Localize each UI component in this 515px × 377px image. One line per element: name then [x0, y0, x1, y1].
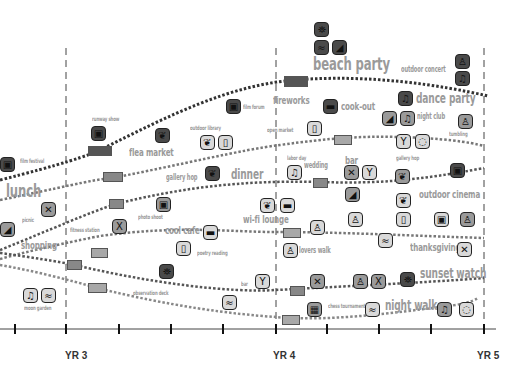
- label-dinner: dinner: [231, 167, 263, 181]
- label-wedding: wedding: [304, 162, 328, 170]
- node-flea-market: [88, 146, 112, 156]
- gallery-hop-icon-left: ❦: [205, 166, 220, 181]
- library-book-icon: ▯: [218, 135, 233, 150]
- moon-garden-swimmer-icon: ≈: [41, 288, 56, 303]
- walker-icon: ♙: [348, 212, 363, 227]
- high-heel-icon: ◢: [345, 187, 360, 202]
- label-sunset-watch: sunset watch: [420, 266, 486, 280]
- film-festival-icon: ▣: [0, 157, 15, 172]
- deck-swimmer-icon: ≈: [222, 295, 237, 310]
- bar-bottom-cocktail-icon: Y: [255, 274, 270, 289]
- cinema-tree-icon: ❦: [396, 193, 411, 208]
- label-outdoor-library: outdoor library: [190, 125, 221, 131]
- label-shopping: shopping: [21, 240, 57, 251]
- label-flea-market: flea market: [129, 147, 174, 158]
- sunset-walker-icon: ♙: [353, 274, 368, 289]
- label-cool-cafe: cool cafe: [165, 225, 200, 236]
- concert-icon: ♫: [455, 71, 470, 86]
- swimmer-sun-icon: ≈: [378, 233, 393, 248]
- lightbulb-icon: ◌: [415, 134, 430, 149]
- year-label-yr3: YR 3: [65, 350, 87, 361]
- year-label-yr4: YR 4: [273, 350, 295, 361]
- label-open-market: open market: [267, 127, 293, 133]
- node-fitness: [109, 199, 124, 209]
- binoculars-icon: ⛯: [314, 22, 329, 37]
- moon-garden-dancers-icon: ♫: [23, 288, 38, 303]
- tumbling-icon: ♙: [458, 114, 473, 129]
- shopping-heel-icon: ◢: [0, 222, 15, 237]
- dog-walker-icon: ♙: [310, 220, 325, 235]
- observation-binoculars-icon: ⛯: [159, 264, 174, 279]
- wifi-tree-icon: ❦: [260, 198, 275, 213]
- node-night-walk: [282, 315, 300, 325]
- flea-market-icon: ❦: [155, 128, 170, 143]
- label-poetry-reading: poetry reading: [197, 250, 228, 256]
- label-bar-bottom: bar: [241, 281, 248, 287]
- swimmer-icon: ≈: [314, 40, 329, 55]
- chess-icon: ▦: [307, 302, 322, 317]
- label-gallery-hop-right: gallery hop: [396, 155, 419, 161]
- bar-cocktail-icon: Y: [362, 165, 377, 180]
- label-cook-out: cook-out: [341, 101, 375, 112]
- night-club-dancers-icon: ♫: [400, 111, 415, 126]
- projector-icon: ▣: [450, 163, 465, 178]
- sunset-fitness-icon: X: [371, 274, 386, 289]
- photo-camera-icon: ▣: [156, 197, 171, 212]
- label-photo-shoot: photo shoot: [138, 214, 163, 220]
- label-observation-deck: observation deck: [133, 290, 168, 296]
- label-tumbling: tumbling: [449, 131, 468, 137]
- film-forum-icon: ▣: [226, 99, 241, 114]
- label-outdoor-cinema: outdoor cinema: [419, 189, 480, 200]
- performer-icon: ♙: [455, 54, 470, 69]
- wifi-laptop-icon: ▬: [280, 198, 295, 213]
- node-gallery-hop: [103, 172, 123, 182]
- node-shopping: [67, 260, 82, 270]
- thanksgiving-fork-knife-icon: ✕: [457, 242, 472, 257]
- night-walk-bulb-icon: ◌: [459, 302, 474, 317]
- night-walk-swimmer-icon: ≈: [365, 302, 380, 317]
- node-wedding: [313, 178, 328, 188]
- bar-fork-knife-icon: ✕: [344, 165, 359, 180]
- fitness-icon: X: [112, 219, 127, 234]
- label-picnic: picnic: [22, 217, 34, 223]
- lounge-chair-icon: ◢: [382, 111, 397, 126]
- lovers-walk-icon: ♙: [283, 243, 298, 258]
- label-moon-garden: moon garden: [24, 305, 51, 311]
- label-thanksgiving: thanksgiving: [410, 242, 460, 253]
- reading-book-icon: ▯: [396, 212, 411, 227]
- path-top: [0, 78, 488, 180]
- grill-icon: ▬: [323, 99, 338, 114]
- label-outdoor-concert: outdoor concert: [401, 66, 446, 74]
- label-dance-party: dance party: [416, 91, 476, 105]
- node-cool-cafe: [91, 248, 108, 258]
- sunset-binoculars-icon: ⛯: [400, 272, 415, 287]
- node-lovers: [283, 228, 301, 238]
- runway-camera-icon: ▣: [91, 126, 106, 141]
- node-fireworks: [284, 76, 308, 87]
- year-label-yr5: YR 5: [477, 350, 499, 361]
- label-night-club: night club: [417, 113, 445, 121]
- label-beach-party: beach party: [313, 55, 390, 73]
- label-wi-fi-lounge: wi-fi lounge: [243, 214, 289, 225]
- cocktail-icon: Y: [396, 134, 411, 149]
- fireworks-icon: ◢: [332, 40, 347, 55]
- gallery-hop-icon-right: ❦: [395, 169, 410, 184]
- wedding-dancers-icon: ♫: [287, 165, 302, 180]
- label-chess-tournament: chess tournament: [328, 303, 365, 309]
- market-stall-icon: ▯: [307, 121, 322, 136]
- label-fitness-station: fitness station: [70, 227, 100, 233]
- library-tree-icon: ❦: [200, 135, 215, 150]
- picnic-fork-knife-icon: ✕: [41, 202, 56, 217]
- label-lovers-walk: lovers walk: [299, 247, 331, 255]
- label-lunch: lunch: [6, 182, 41, 200]
- label-night-walk: night walk: [385, 298, 437, 312]
- label-film-festival: film festival: [20, 158, 44, 164]
- performer-right-icon: ♙: [460, 212, 475, 227]
- dance-icon: ♫: [398, 91, 413, 106]
- node-observation: [88, 283, 107, 293]
- node-sunset: [290, 286, 305, 296]
- sunset-fork-knife-icon: ✕: [310, 274, 325, 289]
- night-walk-dancers-icon: ♫: [437, 302, 452, 317]
- label-runway-show: runway show: [92, 116, 119, 122]
- coffee-cup-icon: ▬: [203, 225, 218, 240]
